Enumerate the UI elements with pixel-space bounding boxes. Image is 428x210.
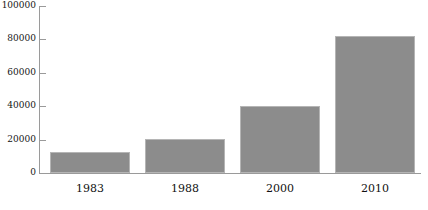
y-tick-label: 0	[0, 167, 36, 177]
x-tick-label: 1988	[145, 182, 225, 195]
x-tick-label: 2010	[335, 182, 415, 195]
x-tick-label: 1983	[50, 182, 130, 195]
x-tick-label: 2000	[240, 182, 320, 195]
bar	[50, 152, 130, 173]
bar	[335, 36, 415, 173]
bar-chart: 020000400006000080000100000 198319882000…	[0, 0, 428, 210]
bars-container	[39, 6, 421, 173]
y-tick-label: 40000	[0, 100, 36, 110]
bar	[240, 106, 320, 173]
y-tick-label: 80000	[0, 33, 36, 43]
x-axis-line	[39, 173, 421, 174]
y-tick-label: 60000	[0, 67, 36, 77]
bar	[145, 139, 225, 173]
y-tick-label: 20000	[0, 134, 36, 144]
y-tick-label: 100000	[0, 0, 36, 10]
y-tick-mark	[39, 173, 46, 174]
